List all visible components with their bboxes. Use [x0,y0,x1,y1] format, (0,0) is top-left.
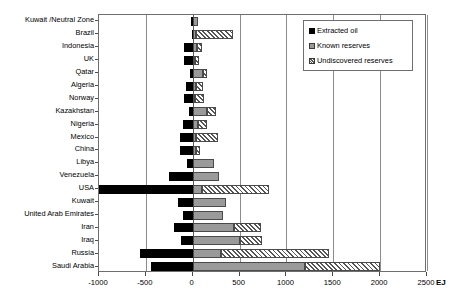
bar-segment [169,172,192,181]
y-axis-category-labels: Kuwait /Neutral ZoneBrazilIndonesiaUKQat… [0,14,94,272]
bar-segment [207,107,216,116]
legend-label-known-reserves: Known reserves [317,41,370,50]
legend-item-undiscovered-reserves: Undiscovered reserves [309,56,408,65]
bar-segment [181,236,193,245]
bar-row [99,247,425,260]
known-reserves-swatch-icon [309,43,315,49]
y-axis-label: Nigeria [0,120,94,128]
y-axis-label: Venezuela [0,171,94,179]
x-axis-tick-label: -500 [125,278,165,287]
x-axis-tick [379,272,380,276]
bar-segment [197,43,201,52]
bar-segment [196,82,203,91]
x-axis-tick-label: -1000 [78,278,118,287]
bar-segment [193,17,198,26]
y-axis-label: Brazil [0,29,94,37]
y-axis-tick [95,253,98,254]
bar-row [99,157,425,170]
bar-segment [193,262,305,271]
x-axis-tick [285,272,286,276]
y-axis-label: USA [0,184,94,192]
y-axis-tick [95,124,98,125]
x-axis-tick-label: 0 [172,278,212,287]
x-axis-tick [332,272,333,276]
chart-legend: Extracted oil Known reserves Undiscovere… [303,20,413,71]
bar-segment [193,185,202,194]
y-axis-label: Kuwait /Neutral Zone [0,16,94,24]
bar-segment [196,146,200,155]
legend-item-extracted-oil: Extracted oil [309,26,408,35]
x-axis-tick [145,272,146,276]
bar-segment [180,133,193,142]
y-axis-label: Iran [0,223,94,231]
x-axis-unit-label: EJ [436,278,446,287]
bar-row [99,105,425,118]
bar-segment [184,94,192,103]
bar-segment [174,223,193,232]
y-axis-label: Indonesia [0,42,94,50]
bar-row [99,221,425,234]
bar-segment [193,172,219,181]
y-axis-tick [95,240,98,241]
y-axis-tick [95,266,98,267]
bar-segment [99,185,193,194]
x-axis-tick [192,272,193,276]
bar-segment [196,30,233,39]
y-axis-label: Algeria [0,81,94,89]
legend-label-extracted-oil: Extracted oil [317,26,358,35]
y-axis-label: Libya [0,158,94,166]
y-axis-tick [95,188,98,189]
bar-row [99,118,425,131]
y-axis-tick [95,72,98,73]
bar-segment [140,249,192,258]
bar-segment [195,56,199,65]
bar-segment [186,82,193,91]
undiscovered-reserves-swatch-icon [309,58,315,64]
bar-segment [193,107,208,116]
bar-segment [193,211,223,220]
extracted-oil-swatch-icon [309,28,315,34]
y-axis-label: China [0,145,94,153]
y-axis-tick [95,20,98,21]
y-axis-tick [95,214,98,215]
y-axis-label: Mexico [0,133,94,141]
y-axis-tick [95,201,98,202]
bar-segment [178,198,193,207]
y-axis-tick [95,111,98,112]
y-axis-label: Iraq [0,236,94,244]
bar-segment [180,146,193,155]
y-axis-tick [95,85,98,86]
bar-segment [193,159,214,168]
bar-row [99,131,425,144]
y-axis-label: Qatar [0,68,94,76]
bar-row [99,196,425,209]
bar-segment [193,198,227,207]
y-axis-tick [95,137,98,138]
x-axis-tick [98,272,99,276]
bar-row [99,80,425,93]
bar-segment [195,94,204,103]
y-axis-label: Kuwait [0,197,94,205]
bar-row [99,183,425,196]
y-axis-tick [95,33,98,34]
x-axis-tick [426,272,427,276]
bar-segment [193,249,221,258]
y-axis-label: United Arab Emirates [0,210,94,218]
bar-row [99,170,425,183]
bar-row [99,92,425,105]
bar-segment [203,69,207,78]
bar-segment [202,185,269,194]
bar-segment [234,223,261,232]
y-axis-tick [95,175,98,176]
x-axis-tick-label: 2000 [359,278,399,287]
oil-reserves-bar-chart: Kuwait /Neutral ZoneBrazilIndonesiaUKQat… [0,0,462,301]
y-axis-label: Norway [0,94,94,102]
x-axis-tick [239,272,240,276]
y-axis-tick [95,162,98,163]
y-axis-label: Russia [0,249,94,257]
bar-row [99,144,425,157]
x-axis-tick-label: 500 [219,278,259,287]
bar-row [99,209,425,222]
bar-row [99,234,425,247]
bar-segment [193,69,203,78]
